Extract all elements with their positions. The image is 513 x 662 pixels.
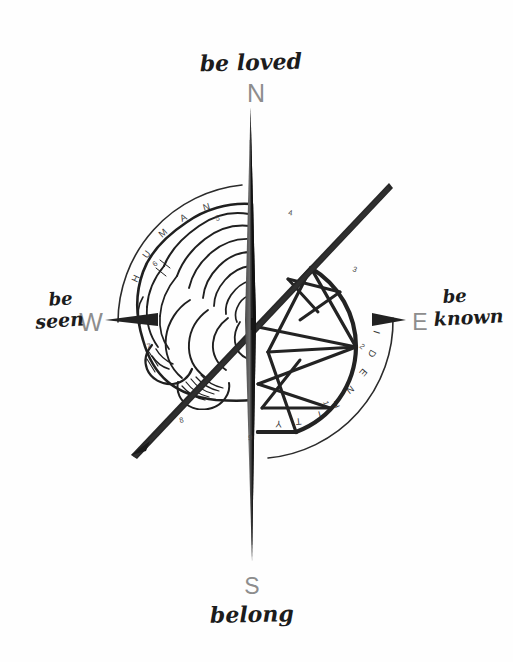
- arc-letter-t2: T: [295, 416, 302, 428]
- compass-illustration: H U M A N I D E N T I T Y: [0, 0, 513, 662]
- tick-number: 9: [248, 433, 253, 442]
- diagram-canvas: H U M A N I D E N T I T Y: [0, 0, 513, 662]
- phrase-east-line2: known: [433, 304, 504, 330]
- phrase-west-line2: seen: [33, 307, 84, 332]
- arc-letter-y: Y: [275, 419, 283, 430]
- phrase-north: be loved: [199, 48, 302, 77]
- phrase-south: belong: [210, 600, 294, 627]
- phrase-east-line1: be: [442, 285, 467, 307]
- phrase-west-line1: be: [48, 287, 73, 310]
- cardinal-north: N: [247, 79, 265, 107]
- cardinal-south: S: [244, 573, 259, 599]
- cardinal-east: E: [412, 309, 427, 335]
